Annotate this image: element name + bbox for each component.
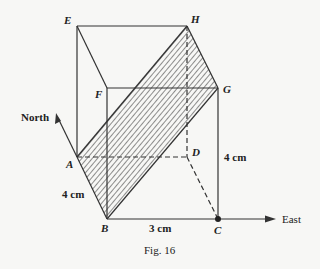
label-h: H bbox=[190, 13, 200, 25]
figure-caption: Fig. 16 bbox=[144, 244, 176, 256]
dimension-ab: 4 cm bbox=[62, 188, 84, 200]
dimension-cg: 4 cm bbox=[224, 151, 246, 163]
edge-dc-hidden bbox=[187, 157, 218, 219]
prism-diagram: E H F G A D B C North East 4 cm 3 cm 4 c… bbox=[0, 0, 320, 269]
label-north: North bbox=[21, 111, 49, 123]
label-b: B bbox=[100, 222, 108, 234]
label-east: East bbox=[282, 213, 301, 225]
label-e: E bbox=[63, 14, 71, 26]
label-d: D bbox=[191, 146, 200, 158]
label-g: G bbox=[223, 83, 231, 95]
label-a: A bbox=[65, 158, 73, 170]
label-c: C bbox=[214, 224, 222, 236]
label-f: F bbox=[94, 88, 103, 100]
edge-ef bbox=[77, 26, 107, 88]
shaded-plane-abgh bbox=[77, 26, 218, 219]
point-c-dot bbox=[215, 216, 221, 222]
dimension-bc: 3 cm bbox=[149, 222, 171, 234]
east-arrowhead-icon bbox=[265, 216, 276, 223]
north-arrow bbox=[58, 118, 77, 157]
